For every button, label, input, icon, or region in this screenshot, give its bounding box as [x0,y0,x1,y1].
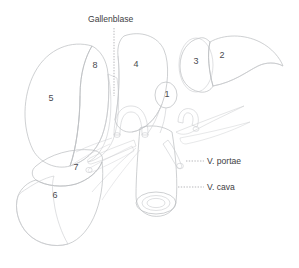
leader-lines [114,28,204,187]
segment-label-1: 1 [164,89,169,99]
segment-8-shape [70,46,109,166]
segment-label-3: 3 [193,56,198,66]
segment-7-shape [32,150,102,186]
segment-5-shape [25,44,92,167]
segment-label-7: 7 [73,162,78,172]
label-v-portae: V. portae [207,156,241,166]
anatomy-illustration: 1 2 3 4 5 6 7 8 Gallenblase V. portae V.… [0,0,299,268]
segment-label-4: 4 [133,59,138,69]
segment-label-2: 2 [219,50,224,60]
segment-label-8: 8 [92,60,97,70]
segment-label-5: 5 [48,93,53,103]
segment-6-shape [16,162,102,246]
segment-label-6: 6 [52,190,57,200]
segment-2-shape [209,36,283,86]
label-gallenblase: Gallenblase [88,14,134,24]
label-v-cava: V. cava [207,182,235,192]
liver-segments-figure: 1 2 3 4 5 6 7 8 Gallenblase V. portae V.… [0,0,299,268]
